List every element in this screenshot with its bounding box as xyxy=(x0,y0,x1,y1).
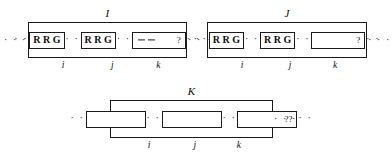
question-mark-I-k: ? xyxy=(177,36,181,45)
ellipsis-outer-right-K: · · · xyxy=(273,114,298,124)
index-row-J: i j k xyxy=(207,60,367,74)
index-row-K: i j k xyxy=(110,140,273,154)
ellipsis-before-i-I: · · xyxy=(13,34,29,44)
ellipsis-between-i-j-K: · · xyxy=(146,113,162,123)
cell-glyph-g: G xyxy=(53,35,61,45)
cell-glyph-g: G xyxy=(283,35,291,45)
cell-I-j[interactable]: R R G xyxy=(81,32,116,49)
cell-glyph-r1: R xyxy=(85,35,92,45)
index-label-J-k: k xyxy=(333,60,337,70)
cell-J-k[interactable]: ? xyxy=(311,32,365,49)
index-label-I-i: i xyxy=(62,60,65,70)
cell-row-I: · · R R G · · R R G · · xyxy=(13,23,201,57)
cell-glyph-g: G xyxy=(232,35,240,45)
group-frame-K: · · · · · · ?? · · · · · xyxy=(110,100,273,138)
index-label-J-j: j xyxy=(289,60,292,70)
ellipsis-between-i-j-I: · · xyxy=(65,34,81,44)
dash-run-icon xyxy=(138,39,155,40)
dash-icon xyxy=(148,39,155,40)
cell-glyph-r1: R xyxy=(264,35,271,45)
group-label-I: I xyxy=(28,8,187,19)
cell-glyph-r2: R xyxy=(94,35,101,45)
cell-J-i[interactable]: R R G xyxy=(209,32,244,49)
ellipsis-outer-right-J: · · · xyxy=(367,35,392,45)
cell-glyph-r2: R xyxy=(274,35,281,45)
cell-K-j[interactable] xyxy=(162,111,222,128)
dash-icon xyxy=(138,39,145,40)
cell-row-J: · · R R G · · R R G · · ? · · xyxy=(193,23,381,57)
question-mark-J-k: ? xyxy=(356,36,360,45)
cell-K-i[interactable] xyxy=(86,111,146,128)
index-label-K-i: i xyxy=(148,140,151,150)
index-label-I-j: j xyxy=(111,60,114,70)
group-label-K: K xyxy=(110,86,273,97)
ellipsis-between-j-k-I: · · xyxy=(116,34,132,44)
cell-glyph-r1: R xyxy=(33,35,40,45)
index-label-I-k: k xyxy=(156,60,160,70)
ellipsis-between-i-j-J: · · xyxy=(244,34,260,44)
index-label-J-i: i xyxy=(241,60,244,70)
ellipsis-between-j-k-K: · · xyxy=(222,113,238,123)
cell-J-j[interactable]: R R G xyxy=(260,32,295,49)
group-frame-I: · · · · · R R G · · R R G · · xyxy=(28,22,187,58)
group-label-J: J xyxy=(207,8,367,19)
index-label-K-k: k xyxy=(237,140,241,150)
cell-glyph-r1: R xyxy=(213,35,220,45)
ellipsis-before-i-K: · · xyxy=(70,113,86,123)
cell-glyph-r2: R xyxy=(223,35,230,45)
index-row-I: i j k xyxy=(28,60,187,74)
ellipsis-after-k-K: · · xyxy=(297,113,313,123)
ellipsis-between-j-k-J: · · xyxy=(295,34,311,44)
index-label-K-j: j xyxy=(193,140,196,150)
group-frame-J: · · R R G · · R R G · · ? · · · xyxy=(207,22,367,58)
cell-I-i[interactable]: R R G xyxy=(29,32,64,49)
ellipsis-before-i-J: · · xyxy=(193,34,209,44)
cell-I-k[interactable]: ? xyxy=(132,32,186,49)
cell-glyph-r2: R xyxy=(43,35,50,45)
cell-glyph-g: G xyxy=(104,35,112,45)
